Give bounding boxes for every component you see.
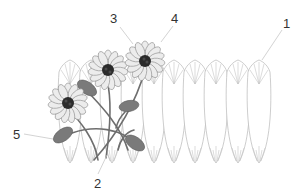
leader-line-3 (120, 27, 133, 44)
leader-line-4 (161, 26, 173, 42)
callout-label-4: 4 (171, 11, 178, 26)
leader-line-1 (262, 30, 282, 60)
elongated-petal (247, 60, 271, 163)
elongated-petal (226, 60, 250, 163)
elongated-petal (204, 60, 228, 163)
callout-label-2: 2 (94, 176, 101, 190)
flower-center (139, 55, 151, 67)
leader-line-5 (24, 134, 53, 139)
callout-label-1: 1 (283, 16, 290, 31)
flower-center (62, 97, 74, 109)
petal-row (58, 60, 271, 163)
elongated-petal (162, 60, 186, 163)
callout-label-3: 3 (110, 11, 117, 26)
leader-line-2 (98, 155, 107, 174)
elongated-petal (183, 60, 207, 163)
flower-center (102, 64, 114, 76)
flower-diagram: 1 2 3 4 5 (0, 0, 301, 190)
callout-label-5: 5 (13, 127, 20, 142)
